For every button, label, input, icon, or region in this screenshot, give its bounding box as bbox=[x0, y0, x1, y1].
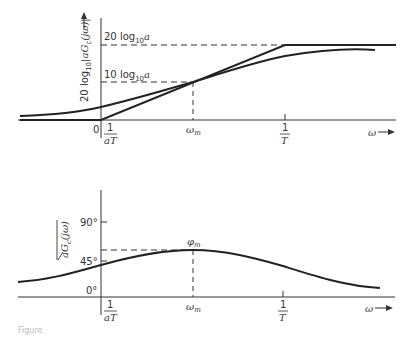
tick-label-1-aT-num: 1 bbox=[107, 299, 113, 310]
phase-plot: 90° 45° 0° φm aGc(jω) 1 aT ωm 1 T ω bbox=[18, 190, 395, 323]
figure-caption: Figure bbox=[18, 326, 42, 335]
tick-label-90: 90° bbox=[80, 217, 98, 228]
svg-text:20 log10|aGc(jω)|: 20 log10|aGc(jω)| bbox=[79, 18, 93, 102]
bode-diagram: 20 log10|aGc(jω)| 20 log10a 10 log10a 0 … bbox=[0, 0, 411, 338]
phase-y-label: aGc(jω) bbox=[57, 220, 73, 260]
svg-text:aGc(jω): aGc(jω) bbox=[59, 221, 73, 258]
tick-label-1-T-num: 1 bbox=[280, 299, 286, 310]
tick-label-0: 0° bbox=[86, 285, 97, 296]
tick-label-1-T-num: 1 bbox=[282, 122, 288, 133]
tick-label-wm: ωm bbox=[186, 124, 201, 137]
ref-label-10log: 10 log10a bbox=[104, 69, 150, 83]
tick-label-1-T-den: T bbox=[279, 312, 287, 323]
tick-label-1-T-den: T bbox=[281, 135, 289, 146]
magnitude-y-label: 20 log10|aGc(jω)| bbox=[79, 18, 93, 102]
tick-label-1-aT-num: 1 bbox=[107, 122, 113, 133]
magnitude-curve bbox=[20, 49, 375, 116]
arrow-right-icon bbox=[388, 129, 395, 135]
phi-m-label: φm bbox=[187, 236, 201, 249]
tick-label-wm: ωm bbox=[186, 301, 201, 314]
magnitude-plot: 20 log10|aGc(jω)| 20 log10a 10 log10a 0 … bbox=[18, 12, 396, 146]
tick-label-1-aT-den: aT bbox=[104, 312, 118, 323]
tick-label-1-aT-den: aT bbox=[104, 135, 118, 146]
arrow-up-icon bbox=[81, 12, 87, 19]
phase-curve bbox=[18, 250, 380, 288]
arrow-right-icon bbox=[386, 305, 393, 311]
asymptote-line bbox=[20, 45, 396, 120]
x-axis-label-omega: ω bbox=[365, 303, 373, 314]
tick-label-45: 45° bbox=[80, 256, 98, 267]
origin-label: 0 bbox=[93, 124, 99, 135]
x-axis-label-omega: ω bbox=[368, 127, 376, 138]
ref-label-20log: 20 log10a bbox=[104, 31, 150, 45]
